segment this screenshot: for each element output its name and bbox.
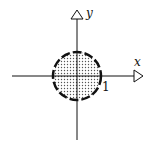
x-axis-label: x xyxy=(134,55,141,69)
x-axis-arrow-icon xyxy=(134,70,143,82)
radius-label: 1 xyxy=(102,80,110,94)
y-axis-arrow-icon xyxy=(71,10,83,19)
coordinate-diagram: y x 1 xyxy=(0,0,146,144)
y-axis-label: y xyxy=(85,6,93,20)
